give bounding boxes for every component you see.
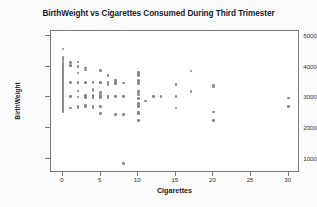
- x-tick-mark: [212, 172, 213, 176]
- scatter-point: [92, 106, 95, 109]
- scatter-point: [92, 81, 95, 84]
- scatter-point: [84, 105, 87, 108]
- scatter-point: [77, 65, 80, 68]
- x-tick-label: 30: [276, 176, 300, 183]
- scatter-point: [144, 100, 147, 103]
- x-tick-label: 25: [238, 176, 262, 183]
- x-tick-label: 0: [50, 176, 74, 183]
- scatter-point: [69, 81, 72, 84]
- scatter-point: [287, 105, 290, 108]
- scatter-point: [77, 90, 80, 93]
- scatter-point: [99, 96, 102, 99]
- scatter-point: [212, 119, 215, 122]
- scatter-point: [107, 74, 110, 77]
- plot-area: [50, 30, 299, 172]
- chart-title: BirthWeight vs Cigarettes Consumed Durin…: [0, 9, 317, 18]
- x-tick-mark: [175, 172, 176, 176]
- scatter-points-layer: [51, 31, 298, 171]
- scatter-point: [62, 48, 65, 51]
- scatter-point: [114, 82, 117, 85]
- scatter-point: [137, 105, 140, 108]
- scatter-point: [92, 90, 95, 93]
- scatter-point: [122, 162, 125, 165]
- scatter-point: [287, 97, 290, 100]
- scatter-point: [212, 86, 215, 89]
- scatter-point: [137, 119, 140, 122]
- scatter-point: [69, 65, 72, 68]
- scatter-point: [137, 97, 140, 100]
- scatter-point: [190, 90, 193, 93]
- x-tick-label: 10: [125, 176, 149, 183]
- scatter-point: [77, 72, 80, 75]
- scatter-point: [160, 95, 163, 98]
- scatter-point: [122, 82, 125, 85]
- scatter-point: [137, 74, 140, 77]
- scatter-point: [99, 105, 102, 108]
- scatter-point: [84, 69, 87, 72]
- scatter-point: [84, 96, 87, 99]
- scatter-point: [77, 82, 80, 85]
- scatter-point: [175, 83, 178, 86]
- scatter-point: [175, 107, 178, 110]
- scatter-point: [122, 113, 125, 116]
- scatter-point: [190, 70, 193, 73]
- scatter-point: [84, 82, 87, 85]
- x-tick-mark: [100, 172, 101, 176]
- scatter-point: [99, 82, 102, 85]
- scatter-point: [137, 82, 140, 85]
- scatter-point: [69, 95, 72, 98]
- scatter-plot-figure: BirthWeight vs Cigarettes Consumed Durin…: [0, 0, 317, 207]
- scatter-point: [107, 96, 110, 99]
- scatter-point: [69, 107, 72, 110]
- scatter-point: [114, 95, 117, 98]
- x-tick-mark: [137, 172, 138, 176]
- x-tick-mark: [250, 172, 251, 176]
- scatter-point: [62, 110, 65, 113]
- scatter-point: [175, 95, 178, 98]
- x-tick-label: 15: [163, 176, 187, 183]
- scatter-point: [99, 69, 102, 72]
- scatter-point: [122, 95, 125, 98]
- scatter-point: [212, 111, 215, 114]
- scatter-point: [137, 94, 140, 97]
- y-axis-label: BirthWeight: [14, 82, 21, 119]
- scatter-point: [114, 113, 117, 116]
- x-tick-label: 20: [200, 176, 224, 183]
- scatter-point: [92, 96, 95, 99]
- x-tick-label: 5: [88, 176, 112, 183]
- scatter-point: [137, 112, 140, 115]
- scatter-point: [77, 106, 80, 109]
- scatter-point: [107, 83, 110, 86]
- x-tick-mark: [288, 172, 289, 176]
- scatter-point: [77, 96, 80, 99]
- y-axis-label-container: BirthWeight: [10, 0, 24, 207]
- scatter-point: [77, 61, 80, 64]
- scatter-point: [152, 95, 155, 98]
- x-tick-mark: [62, 172, 63, 176]
- scatter-point: [99, 112, 102, 115]
- x-axis-label: Cigarettes: [50, 186, 299, 195]
